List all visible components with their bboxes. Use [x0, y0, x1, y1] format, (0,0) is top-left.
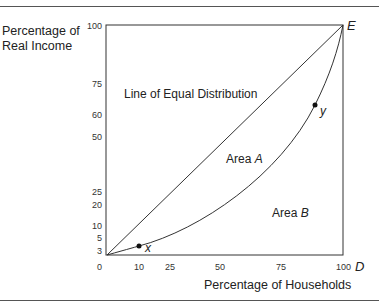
x-tick-50: 50 [215, 262, 225, 272]
y-tick-25: 25 [80, 187, 102, 197]
corner-d-label: D [355, 259, 364, 274]
y-axis-title-line2: Real Income [2, 39, 80, 54]
y-tick-50: 50 [80, 132, 102, 142]
y-axis-title: Percentage of Real Income [2, 24, 80, 54]
point-y-marker [313, 103, 318, 108]
area-b-label: Area B [272, 206, 309, 220]
point-y-label: y [320, 104, 326, 118]
y-tick-60: 60 [80, 110, 102, 120]
y-tick-3: 3 [80, 246, 102, 256]
y-tick-100: 100 [80, 21, 102, 31]
x-tick-10: 10 [134, 262, 144, 272]
area-b-prefix: Area [272, 206, 301, 220]
x-tick-25: 25 [165, 262, 175, 272]
x-tick-75: 75 [276, 262, 286, 272]
area-a-prefix: Area [226, 152, 255, 166]
area-b-letter: B [301, 206, 309, 220]
point-x-marker [137, 244, 142, 249]
area-a-label: Area A [226, 152, 263, 166]
y-tick-75: 75 [80, 79, 102, 89]
y-axis-title-line1: Percentage of [2, 24, 80, 39]
equal-distribution-label: Line of Equal Distribution [124, 87, 257, 101]
x-tick-0: 0 [97, 262, 102, 272]
x-axis-title: Percentage of Households [204, 278, 351, 292]
y-tick-5: 5 [80, 233, 102, 243]
y-tick-10: 10 [80, 221, 102, 231]
equal-distribution-line [107, 25, 343, 255]
area-a-letter: A [255, 152, 263, 166]
x-tick-100: 100 [336, 262, 351, 272]
corner-e-label: E [347, 18, 356, 33]
point-x-label: x [145, 241, 151, 255]
y-tick-20: 20 [80, 200, 102, 210]
